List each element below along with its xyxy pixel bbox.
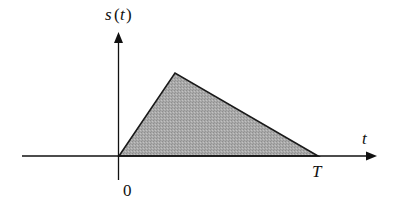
y-axis-label-close-paren: )	[126, 5, 132, 24]
x-axis-arrow-icon	[366, 152, 377, 161]
end-label: T	[312, 162, 323, 181]
origin-label: 0	[123, 181, 132, 200]
x-axis-label: t	[362, 129, 368, 148]
pulse-area	[119, 73, 318, 156]
y-axis-arrow-icon	[114, 32, 123, 43]
y-axis-label-func: s	[105, 5, 112, 24]
triangular-pulse-diagram: s ( t ) t 0 T	[0, 0, 395, 210]
